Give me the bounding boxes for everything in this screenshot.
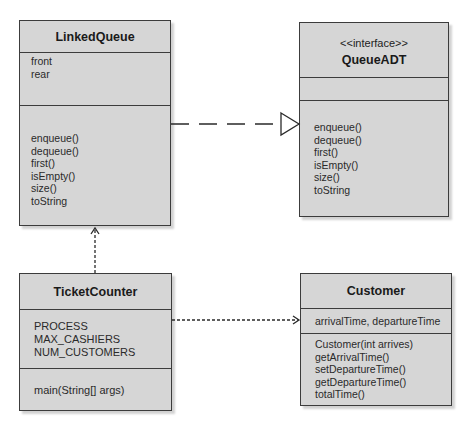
class-queue-adt[interactable]: <<interface>> QueueADT enqueue() dequeue…	[299, 22, 449, 217]
method: main(String[] args)	[34, 384, 124, 397]
attribute: PROCESS	[34, 320, 135, 333]
divider-name-attributes	[20, 52, 170, 53]
method: getDepartureTime()	[315, 376, 413, 389]
method: Customer(int arrives)	[315, 338, 413, 351]
class-name-queue-adt: QueueADT	[300, 53, 448, 67]
divider-attributes-methods	[300, 100, 448, 101]
method: toString	[314, 184, 362, 197]
method-list: enqueue() dequeue() first() isEmpty() si…	[314, 121, 362, 197]
hollow-triangle-icon	[281, 113, 299, 135]
class-ticket-counter[interactable]: TicketCounter PROCESS MAX_CASHIERS NUM_C…	[19, 273, 172, 411]
method: totalTime()	[315, 388, 413, 401]
divider-attributes-methods	[301, 333, 451, 334]
method: dequeue()	[31, 145, 79, 158]
divider-attributes-methods	[20, 105, 170, 106]
attribute: NUM_CUSTOMERS	[34, 346, 135, 359]
class-name-linked-queue: LinkedQueue	[20, 30, 170, 44]
method: first()	[31, 157, 79, 170]
attribute-list: PROCESS MAX_CASHIERS NUM_CUSTOMERS	[34, 320, 135, 359]
attribute-list: front rear	[31, 55, 52, 80]
attribute: rear	[31, 68, 52, 81]
method-list: enqueue() dequeue() first() isEmpty() si…	[31, 132, 79, 208]
method-list: Customer(int arrives) getArrivalTime() s…	[315, 338, 413, 401]
method: dequeue()	[314, 134, 362, 147]
method: enqueue()	[314, 121, 362, 134]
divider-name-attributes	[300, 77, 448, 78]
method: size()	[31, 182, 79, 195]
attribute: front	[31, 55, 52, 68]
attribute: MAX_CASHIERS	[34, 333, 135, 346]
class-name-ticket-counter: TicketCounter	[20, 285, 171, 299]
attribute: arrivalTime, departureTime	[315, 315, 440, 328]
method: enqueue()	[31, 132, 79, 145]
method: first()	[314, 146, 362, 159]
realization-arrow[interactable]	[171, 113, 299, 135]
divider-name-attributes	[301, 308, 451, 309]
method: toString	[31, 195, 79, 208]
method: setDepartureTime()	[315, 363, 413, 376]
stereotype-label: <<interface>>	[300, 37, 448, 49]
dependency-arrow-to-customer[interactable]	[172, 316, 299, 324]
method: size()	[314, 171, 362, 184]
divider-attributes-methods	[20, 368, 171, 369]
attribute-list: arrivalTime, departureTime	[315, 315, 440, 328]
method-list: main(String[] args)	[34, 384, 124, 397]
class-customer[interactable]: Customer arrivalTime, departureTime Cust…	[300, 273, 452, 406]
divider-name-attributes	[20, 309, 171, 310]
method: getArrivalTime()	[315, 351, 413, 364]
dependency-arrow-to-linked-queue[interactable]	[91, 228, 99, 273]
method: isEmpty()	[314, 159, 362, 172]
method: isEmpty()	[31, 170, 79, 183]
class-linked-queue[interactable]: LinkedQueue front rear enqueue() dequeue…	[19, 20, 171, 226]
class-name-customer: Customer	[301, 284, 451, 298]
